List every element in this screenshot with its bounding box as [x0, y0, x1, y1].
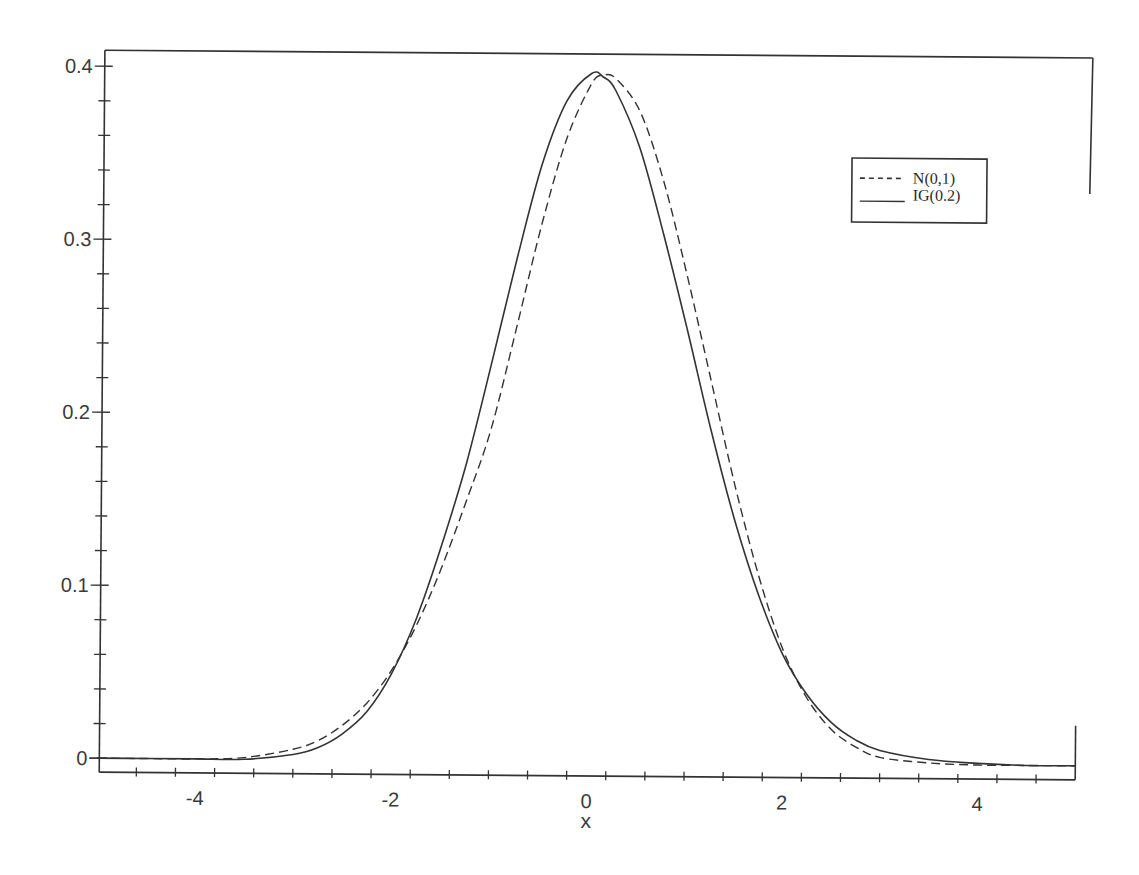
x-tick-label: -4	[186, 787, 204, 809]
chart-container: 00.10.20.30.4 -4-2024 x N(0,1) IG(0.2)	[0, 0, 1139, 875]
plot-area: 00.10.20.30.4 -4-2024 x N(0,1) IG(0.2)	[59, 50, 1093, 836]
x-axis-label: x	[581, 809, 592, 832]
y-tick-label: 0.3	[64, 228, 92, 250]
y-tick-label: 0	[76, 747, 87, 769]
legend-item-normal: N(0,1)	[913, 170, 955, 188]
legend: N(0,1) IG(0.2)	[852, 158, 987, 223]
y-axis: 00.10.20.30.4	[59, 55, 112, 769]
line-chart: 00.10.20.30.4 -4-2024 x N(0,1) IG(0.2)	[0, 0, 1139, 875]
x-tick-label: 4	[972, 793, 983, 815]
y-tick-label: 0.2	[62, 401, 90, 423]
x-axis-line	[99, 772, 1075, 780]
y-tick-label: 0.4	[65, 55, 93, 77]
x-tick-label: 2	[776, 791, 787, 813]
y-axis-line	[99, 50, 105, 772]
legend-item-ig: IG(0.2)	[913, 187, 961, 205]
plot-frame	[99, 50, 1093, 780]
frame-top-line	[105, 50, 1093, 58]
x-tick-label: -2	[381, 788, 399, 810]
frame-right-upper-line	[1090, 58, 1093, 194]
y-tick-label: 0.1	[61, 574, 89, 596]
